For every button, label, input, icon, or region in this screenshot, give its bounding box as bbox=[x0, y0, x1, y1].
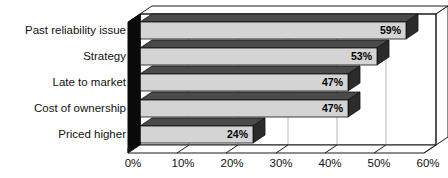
category-label-4: Priced higher bbox=[58, 128, 126, 140]
chart-svg: 59% 53% 47% 47% 24% bbox=[0, 0, 448, 178]
x-tick-label-4: 40% bbox=[318, 157, 341, 169]
bar-group-2: 47% bbox=[140, 66, 360, 91]
x-tick-label-1: 10% bbox=[171, 157, 194, 169]
plot-right-wall bbox=[436, 6, 448, 145]
y-axis-wall bbox=[128, 14, 140, 153]
bar-group-0: 59% bbox=[140, 14, 418, 39]
bar-top-face-2 bbox=[140, 66, 360, 74]
x-tick-label-6: 60% bbox=[416, 157, 439, 169]
bar-front-face-2 bbox=[140, 74, 348, 91]
category-labels: Past reliability issue Strategy Late to … bbox=[25, 24, 127, 140]
bar-group-1: 53% bbox=[140, 40, 389, 65]
bar-top-face-1 bbox=[140, 40, 389, 48]
x-tick-label-0: 0% bbox=[125, 157, 142, 169]
bar-top-face-0 bbox=[140, 14, 418, 22]
bar-value-label-4: 24% bbox=[227, 128, 249, 140]
bar-group-3: 47% bbox=[140, 92, 360, 117]
bar-top-face-3 bbox=[140, 92, 360, 100]
bar-front-face-0 bbox=[140, 22, 406, 39]
x-tick-label-3: 30% bbox=[269, 157, 292, 169]
bar-value-label-0: 59% bbox=[380, 24, 402, 36]
bar-top-face-4 bbox=[140, 118, 265, 126]
category-label-1: Strategy bbox=[83, 50, 126, 62]
bar-group-4: 24% bbox=[140, 118, 265, 143]
x-tick-labels: 0% 10% 20% 30% 40% 50% 60% bbox=[125, 157, 440, 169]
bar-value-label-1: 53% bbox=[351, 50, 373, 62]
plot-back-wall-top bbox=[140, 6, 448, 14]
category-label-2: Late to market bbox=[52, 76, 126, 88]
bar-front-face-1 bbox=[140, 48, 377, 65]
x-tick-label-2: 20% bbox=[220, 157, 243, 169]
bar-value-label-2: 47% bbox=[322, 76, 344, 88]
bar-chart: 59% 53% 47% 47% 24% bbox=[0, 0, 448, 178]
bar-value-label-3: 47% bbox=[322, 102, 344, 114]
category-label-3: Cost of ownership bbox=[34, 102, 126, 114]
bar-front-face-3 bbox=[140, 100, 348, 117]
category-label-0: Past reliability issue bbox=[25, 24, 126, 36]
x-tick-label-5: 50% bbox=[367, 157, 390, 169]
